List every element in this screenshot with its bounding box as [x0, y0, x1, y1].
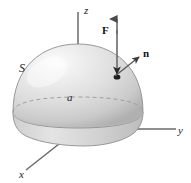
normal-vector-label: n: [143, 47, 149, 59]
surface-label: S: [19, 61, 25, 75]
force-vector-label: F: [102, 24, 109, 36]
radius-label: a: [67, 91, 73, 103]
z-axis-label: z: [83, 4, 89, 16]
hemisphere-flux-figure: z y x S a F n: [0, 0, 191, 183]
figure-canvas: z y x S a F n: [0, 0, 191, 183]
y-axis-label: y: [177, 124, 183, 136]
hemisphere-surface: [13, 44, 143, 146]
x-axis-label: x: [18, 168, 24, 180]
